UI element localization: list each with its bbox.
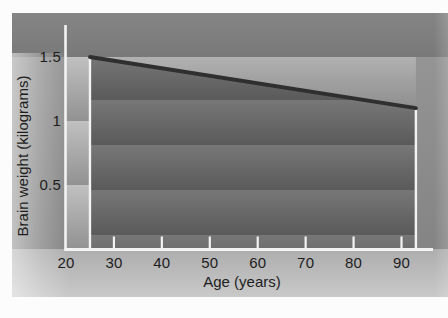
x-tick-label: 60 [238,254,278,272]
x-tick-label: 90 [382,254,422,272]
x-tick-label: 50 [190,254,230,272]
x-tick-label: 40 [142,254,182,272]
y-axis-title: Brain weight (kilograms) [14,76,31,237]
figure-top-band [12,13,448,57]
x-tick-label: 20 [46,254,86,272]
x-tick-label: 70 [286,254,326,272]
y-tick-label: 1.5 [16,48,61,66]
page: 1.510.5 2030405060708090 Age (years) Bra… [0,0,448,318]
x-axis-title: Age (years) [181,273,303,291]
figure-right-highlight [434,13,448,297]
x-tick-label: 30 [94,254,134,272]
x-tick-label: 80 [334,254,374,272]
figure-mid-band [12,57,448,249]
